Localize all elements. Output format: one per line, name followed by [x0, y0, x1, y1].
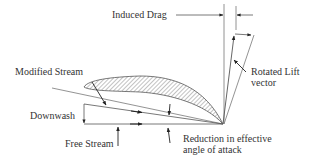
airfoil [84, 76, 223, 124]
rotated-lift-label-line2: vector [251, 77, 276, 88]
lift-construction-top [235, 34, 251, 35]
rotated-lift-label-line1: Rotated Lift [251, 66, 300, 77]
free-stream-label: Free Stream [65, 138, 114, 149]
induced-drag-label: Induced Drag [112, 9, 167, 20]
downwash-label: Downwash [30, 110, 75, 121]
reduction-label-line1: Reduction in effective [183, 133, 272, 144]
reduction-arrow-upper [169, 104, 170, 115]
rotated-lift-leader [234, 60, 246, 72]
reduction-label-line2: angle of attack [183, 144, 242, 155]
reduction-arrow-lower [168, 128, 170, 143]
modified-stream-label: Modified Stream [15, 66, 83, 77]
